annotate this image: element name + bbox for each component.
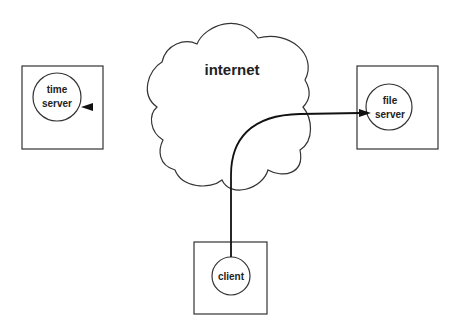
arrowhead-time-server-icon xyxy=(81,103,93,111)
file-server-label-line2: server xyxy=(375,109,405,120)
file-server-node[interactable]: file server xyxy=(357,66,438,149)
client-label: client xyxy=(218,271,245,282)
time-server-label-line1: time xyxy=(47,84,68,95)
file-server-circle xyxy=(366,84,412,130)
time-server-circle xyxy=(33,73,81,121)
file-server-label-line1: file xyxy=(383,95,398,106)
internet-label: internet xyxy=(204,61,259,78)
network-diagram: internet time server file server client xyxy=(0,0,458,326)
time-server-label-line2: server xyxy=(42,98,72,109)
